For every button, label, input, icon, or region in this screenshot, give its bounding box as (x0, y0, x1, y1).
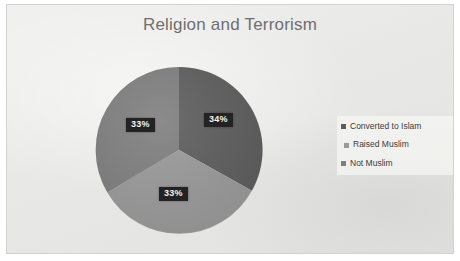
pie-chart (93, 64, 265, 236)
legend-item-label: Not Muslim (350, 159, 393, 168)
data-label-converted-to-islam: 34% (204, 113, 233, 127)
chart-legend: Converted to Islam Raised Muslim Not Mus… (337, 116, 454, 175)
pie-shading-overlay (96, 67, 262, 233)
legend-item-not-muslim: Not Muslim (341, 159, 451, 168)
chart-title: Religion and Terrorism (7, 15, 453, 35)
legend-item-label: Converted to Islam (350, 122, 421, 131)
data-label-not-muslim: 33% (126, 118, 155, 132)
legend-swatch-icon (341, 161, 346, 166)
legend-swatch-icon (344, 143, 349, 148)
pie-chart-svg (93, 64, 265, 236)
legend-item-raised-muslim: Raised Muslim (344, 140, 451, 149)
legend-item-label: Raised Muslim (353, 140, 409, 149)
legend-swatch-icon (341, 124, 346, 129)
legend-item-converted-to-islam: Converted to Islam (341, 122, 451, 131)
screenshot-root: Religion and Terrorism 34% 33% (0, 0, 460, 261)
data-label-raised-muslim: 33% (159, 187, 188, 201)
slide-frame: Religion and Terrorism 34% 33% (6, 4, 454, 254)
